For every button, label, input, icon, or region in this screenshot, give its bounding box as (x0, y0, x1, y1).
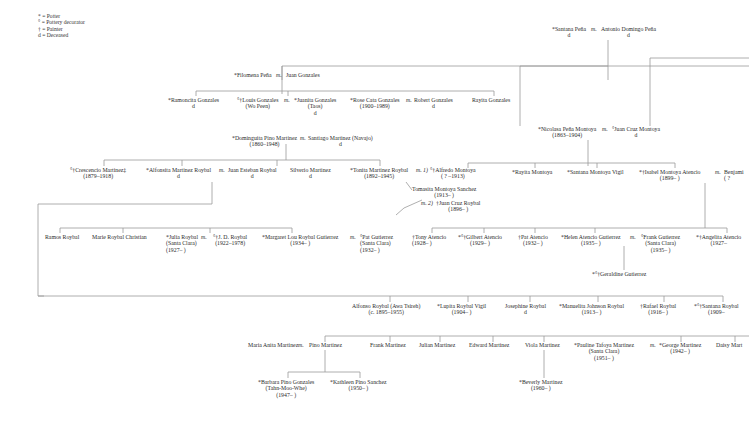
marriage-label: m. (219, 167, 225, 173)
marriage-label: m. (715, 169, 721, 175)
person-julian-martinez: Julian Martinez (419, 342, 455, 348)
person-maria-anita-martinez: Maria Anita Martinez (248, 342, 298, 348)
person-julia-roybal: *Julia Roybal(Santa Clara)(1927– ) (166, 234, 198, 253)
person-lupita-roybal-vigil: *Lupita Roybal Vigil(1904– ) (437, 303, 486, 316)
marriage-label: m. (300, 135, 306, 141)
person-santana-pena: *Santana Peñad (552, 26, 586, 39)
marriage-label: m. (406, 97, 412, 103)
person-alfonsita-martinez-roybal: *Alfonsita Martinez Roybald (146, 167, 211, 180)
person-crescencio-martinez: °†Crescencio Martinez‡(1879–1918) (70, 167, 126, 180)
marriage-label-first: m. 1) (416, 167, 428, 173)
person-gilbert-atencio: *°†Gilbert Atencio(1929– ) (458, 234, 502, 247)
person-santiago-martinez: Santiago Martinez (Navajo)d (308, 135, 373, 148)
legend-deceased: d = Deceased (38, 32, 85, 38)
marriage-label: m. (602, 126, 608, 132)
person-juan-cruz-montoya: °Juan Cruz Montoyad (612, 126, 660, 139)
person-filomena-pena: *Filomena Peña (234, 72, 272, 78)
person-santana-montoya-vigil: *Santana Montoya Vigil (567, 169, 624, 175)
person-dominguita-pino-martinez: *Dominguita Pino Martinez(1860–1948) (232, 135, 297, 148)
person-juan-esteban-roybal: Juan Esteban Roybald (228, 167, 277, 180)
person-pauline-tafoya-martinez: *Pauline Tafoya Martinez(Santa Clara)(19… (574, 342, 634, 361)
marriage-label: m. (298, 342, 304, 348)
person-george-martinez: *George Martinez(1942– ) (659, 342, 701, 355)
marriage-label: m. (350, 234, 356, 240)
person-nicolasa-pena-montoya: *Nicolasa Peña Montoya(1863–1904) (538, 126, 596, 139)
person-juan-cruz-roybal: †Juan Cruz Roybal(1896– ) (436, 200, 480, 213)
person-frank-gutierrez: °Frank Gutierrez(Santa Clara)(1935– ) (641, 234, 680, 253)
person-pat-gutierrez: °Pat Gutierrez(Santa Clara)(1932– ) (360, 234, 393, 253)
person-rose-cata-gonzales: *Rose Cata Gonzales(1900–1989) (350, 97, 400, 110)
person-margaret-lou-roybal-gutierrez: *Margaret Lou Roybal Gutierrez(1934– ) (262, 234, 338, 247)
person-robert-gonzales: Robert Gonzalesd (414, 97, 453, 110)
marriage-label: m. (591, 26, 597, 32)
family-tree-connectors (0, 0, 749, 432)
person-alfredo-montoya: °†Alfredo Montoya( ? –1913) (430, 167, 476, 180)
person-angelita-atencio: *†Angelita Atencio(1927– (696, 234, 741, 247)
person-tonita-martinez-roybal: *Tonita Martinez Roybal(1892–1945) (350, 167, 408, 180)
marriage-label: m. (276, 72, 282, 78)
marriage-label: m. (284, 97, 290, 103)
person-antonio-domingo-pena: Antonio Domingo Peñad (601, 26, 656, 39)
person-ramos-roybal: Ramos Roybal (45, 234, 79, 240)
person-alfonso-roybal: Alfonso Roybal (Awa Tsireh)(c. 1895–1955… (352, 303, 420, 316)
person-manuelita-johnson-roybal: *Manuelita Johnson Roybal(1913– ) (559, 303, 624, 316)
person-barbara-pino-gonzales: *Barbara Pino Gonzales(Tahn-Moo-Whe)(194… (258, 379, 314, 398)
person-daisy-martinez: Daisy Mart (716, 342, 742, 348)
person-juanita-gonzales: *Juanita Gonzales(Taos)d (294, 97, 336, 116)
person-ramoncita-gonzales: *Ramoncita Gonzalesd (168, 97, 219, 110)
person-frank-martinez: Frank Martinez (370, 342, 406, 348)
person-marie-roybal-christian: Marie Roybal Christian (92, 234, 147, 240)
person-rayita-montoya: *Rayita Montoya (512, 169, 552, 175)
person-juan-gonzales: Juan Gonzales (286, 72, 320, 78)
person-louis-gonzales: °†Louis Gonzales(Wo Peen) (237, 97, 278, 110)
person-isabel-montoya-atencio: *†Isabel Montoya Atencio(1899– ) (639, 169, 701, 182)
person-pino-martinez: Pino Martinez (309, 342, 342, 348)
person-santana-roybal: *°†Santana Roybal(1909– (694, 303, 739, 316)
person-tomasita-montoya-sanchez: Tomasita Montoya Sanchez(1913– ) (412, 186, 476, 199)
person-geraldine-gutierrez: *°†Geraldine Gutierrez (592, 271, 646, 277)
person-silverio-martinez: Silverio Martinezd (290, 167, 331, 180)
person-benjamin: Benjami( ? (724, 169, 744, 182)
person-rayita-gonzales: Rayita Gonzales (472, 97, 510, 103)
person-pat-atencio: †Pat Atencio(1932– ) (518, 234, 548, 247)
person-josephine-roybal: Josephine Roybald (505, 303, 546, 316)
person-tony-atencio: †Tony Atencio(1928– ) (412, 234, 446, 247)
marriage-label: m. (650, 342, 656, 348)
marriage-label: m. (201, 234, 207, 240)
person-edward-martinez: Edward Martinez (469, 342, 509, 348)
legend: * = Potter ° = Pottery decorator † = Pai… (38, 13, 85, 38)
person-jd-roybal: °†J. D. Roybal(1922–1978) (213, 234, 247, 247)
person-rafael-roybal: †Rafael Roybal(1916– ) (640, 303, 676, 316)
person-beverly-martinez: *Beverly Martinez(1960– ) (519, 379, 563, 392)
person-kathleen-pino-sanchez: *Kathleen Pino Sanchez(1950– ) (330, 379, 387, 392)
person-helen-atencio-gutierrez: *Helen Atencio Gutierrez(1935– ) (561, 234, 621, 247)
marriage-label-second: m. 2) (421, 200, 433, 206)
marriage-label: m. (630, 234, 636, 240)
person-viola-martinez: Viola Martinez (525, 342, 560, 348)
